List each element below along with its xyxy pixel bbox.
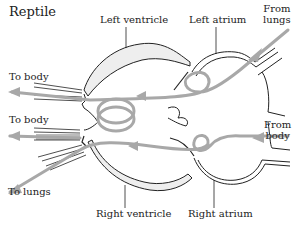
label-from-body-line1: From xyxy=(264,119,291,130)
label-left-ventricle: Left ventricle xyxy=(100,14,168,25)
label-to-body-lower: To body xyxy=(9,114,49,125)
label-left-atrium: Left atrium xyxy=(189,14,246,25)
label-right-ventricle: Right ventricle xyxy=(96,208,172,219)
label-from-body: From body xyxy=(264,119,291,141)
label-from-lungs: From lungs xyxy=(263,3,291,25)
label-from-lungs-line2: lungs xyxy=(263,14,291,25)
label-right-atrium: Right atrium xyxy=(188,208,253,219)
diagram-title: Reptile xyxy=(9,4,56,19)
label-from-lungs-line1: From xyxy=(263,3,291,14)
label-from-body-line2: body xyxy=(264,130,291,141)
label-to-lungs: To lungs xyxy=(8,186,51,197)
label-to-body-upper: To body xyxy=(9,71,49,82)
